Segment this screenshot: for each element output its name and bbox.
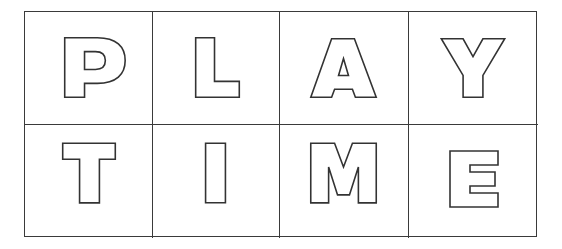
letter-a-glyph — [280, 12, 408, 124]
letter-y-glyph — [409, 12, 538, 124]
letter-i-glyph — [153, 125, 279, 238]
letter-e-glyph — [409, 125, 538, 238]
cell-a: A — [280, 12, 409, 125]
cell-e: E — [409, 125, 538, 238]
letter-p-glyph — [25, 12, 152, 124]
cell-p: P — [25, 12, 153, 125]
cell-i: I — [153, 125, 280, 238]
letter-l-glyph — [153, 12, 279, 124]
cell-y: Y — [409, 12, 538, 125]
cell-t: T — [25, 125, 153, 238]
letter-grid: P L A Y T I M — [24, 11, 537, 237]
letter-t-glyph — [25, 125, 152, 238]
cell-l: L — [153, 12, 280, 125]
cell-m: M — [280, 125, 409, 238]
letter-m-glyph — [280, 125, 408, 238]
